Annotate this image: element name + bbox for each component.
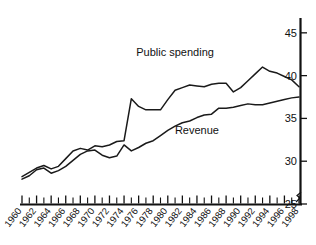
y-tick-label: 35 [285,112,297,124]
annotation-public-spending: Public spending [136,46,214,58]
line-chart: 2530354045 19601962196419661968197019721… [0,0,316,245]
y-tick-label: 45 [285,27,297,39]
chart-figure: 2530354045 19601962196419661968197019721… [0,0,316,245]
annotation-revenue: Revenue [175,124,219,136]
y-tick-label: 30 [285,155,297,167]
